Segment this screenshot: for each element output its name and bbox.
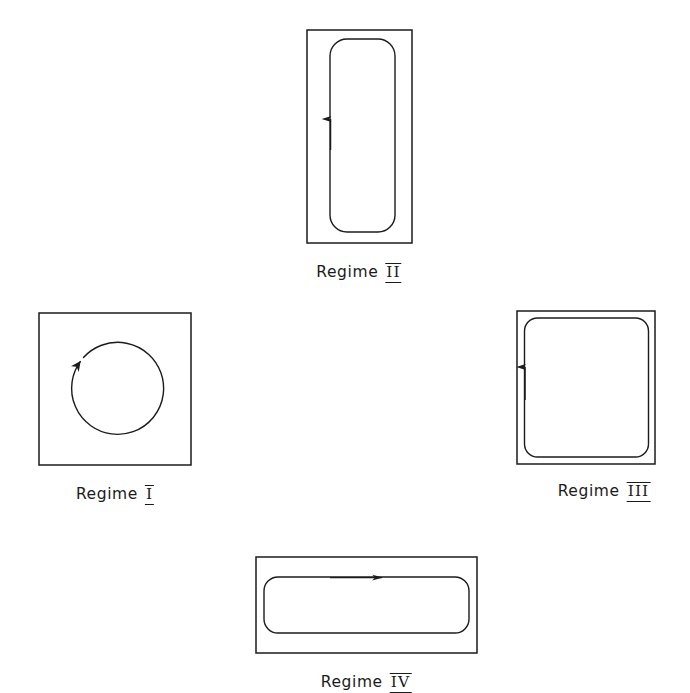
regime-3-label-numeral: III (627, 484, 651, 500)
regime-2-outer-rectangle (307, 30, 412, 243)
panel-regime-2 (307, 30, 412, 243)
regime-2-label: RegimeII (316, 265, 401, 281)
panel-regime-3 (517, 311, 655, 464)
regime-4-label-numeral: IV (390, 675, 412, 691)
regime-3-outer-square (517, 311, 655, 464)
regime-4-outer-rectangle (256, 557, 477, 653)
regime-2-inner-rounded-loop (330, 39, 395, 232)
regime-1-label-numeral: I (145, 487, 154, 503)
regime-4-label-word: Regime (321, 673, 383, 691)
regime-1-label-word: Regime (76, 485, 138, 503)
regime-2-label-word: Regime (316, 263, 378, 281)
regime-3-label-word: Regime (558, 482, 620, 500)
regime-2-label-numeral: II (385, 265, 401, 281)
panel-regime-4 (256, 557, 477, 653)
regime-3-label: RegimeIII (558, 484, 651, 500)
regime-1-outer-square (39, 313, 191, 465)
regime-4-label: RegimeIV (321, 675, 412, 691)
regime-1-label: RegimeI (76, 487, 154, 503)
regime-3-inner-rounded-loop (525, 318, 649, 457)
regime-4-inner-rounded-loop (264, 577, 469, 633)
panel-regime-1 (39, 313, 191, 465)
regime-1-circular-flow-path (72, 342, 164, 434)
